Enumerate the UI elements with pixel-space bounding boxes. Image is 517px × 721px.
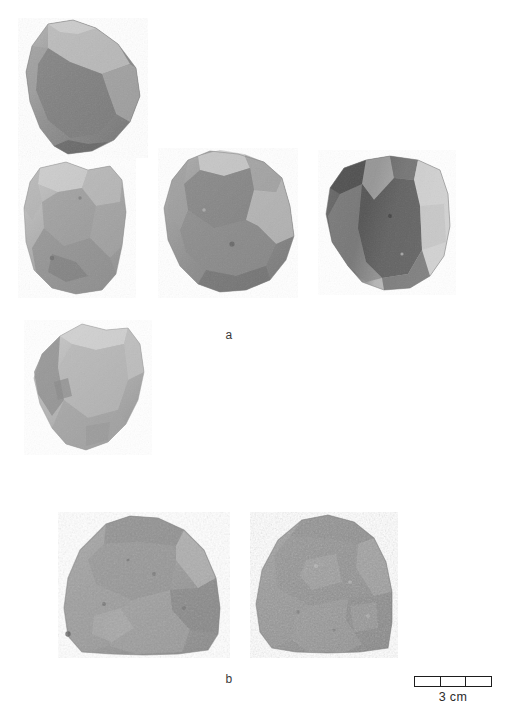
scale-bar-caption: 3 cm <box>414 690 492 704</box>
artifact-photo-4 <box>318 150 456 295</box>
scale-segment-3 <box>466 677 491 686</box>
scale-bar <box>414 676 492 687</box>
artifact-photo-6 <box>58 512 230 658</box>
scale-segment-1 <box>415 677 441 686</box>
artifact-photo-1 <box>18 18 148 158</box>
artifact-photo-3 <box>158 148 298 298</box>
artifact-photo-7 <box>250 512 398 658</box>
panel-label-a: a <box>219 329 239 341</box>
artifact-photo-2 <box>18 158 136 298</box>
scale-segment-2 <box>441 677 467 686</box>
panel-label-b: b <box>219 673 239 685</box>
scale-bar-group: 3 cm <box>414 676 494 704</box>
figure-plate: a b 3 cm <box>0 0 517 721</box>
artifact-photo-5 <box>24 320 152 455</box>
